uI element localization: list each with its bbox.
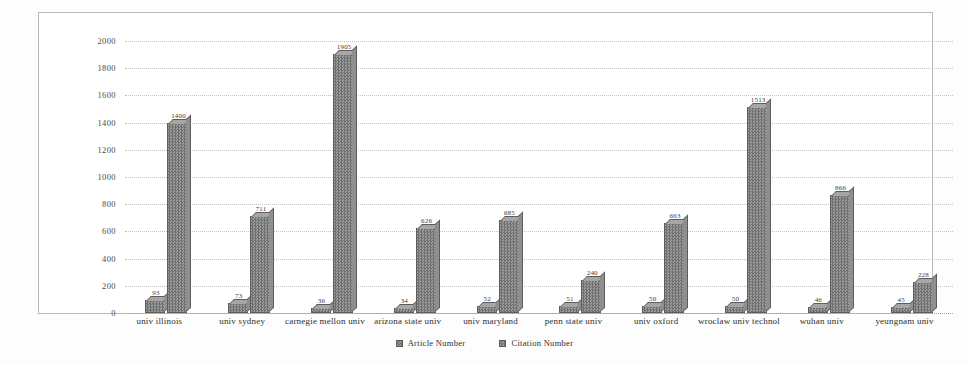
legend-swatch-icon [396, 340, 403, 347]
bar-article-number[interactable]: 50 [725, 306, 745, 313]
bar-value-label: 73 [235, 292, 242, 300]
bar-series-layer: 9314007371136190534626526855124050663501… [125, 41, 953, 313]
bar-article-number[interactable]: 46 [808, 307, 828, 313]
bar-group: 45228 [870, 282, 953, 313]
bar-item[interactable]: 711 [250, 216, 270, 313]
bar-citation-number[interactable]: 1905 [333, 54, 353, 313]
y-axis-tick-label: 1800 [97, 63, 125, 73]
y-axis-tick-label: 1200 [97, 145, 125, 155]
bar-group: 361905 [291, 54, 374, 313]
y-axis-tick-label: 400 [102, 254, 125, 264]
bar-item[interactable]: 663 [664, 223, 684, 313]
legend-label: Article Number [408, 338, 466, 348]
bar-group: 34626 [373, 228, 456, 313]
bar-group: 50663 [622, 223, 705, 313]
bar-group: 501513 [705, 107, 788, 313]
bar-article-number[interactable]: 50 [642, 306, 662, 313]
bar-value-label: 866 [835, 184, 846, 192]
x-axis-category-label: carnegie mellon univ [284, 316, 367, 327]
gridline [125, 313, 953, 314]
y-axis-tick-label: 1400 [97, 118, 125, 128]
bar-item[interactable]: 626 [416, 228, 436, 313]
y-axis-tick-label: 200 [102, 281, 125, 291]
bar-item[interactable]: 93 [145, 300, 165, 313]
bar-value-label: 51 [566, 295, 573, 303]
bar-value-label: 663 [670, 212, 681, 220]
x-axis-category-label: penn state univ [532, 316, 615, 327]
chart-screenshot: 0200400600800100012001400160018002000 93… [0, 0, 969, 365]
bar-item[interactable]: 51 [559, 306, 579, 313]
bar-item[interactable]: 50 [642, 306, 662, 313]
bar-article-number[interactable]: 34 [394, 308, 414, 313]
bar-item[interactable]: 73 [228, 303, 248, 313]
x-axis-category-label: univ maryland [449, 316, 532, 327]
bar-citation-number[interactable]: 711 [250, 216, 270, 313]
bar-citation-number[interactable]: 663 [664, 223, 684, 313]
bar-citation-number[interactable]: 1400 [167, 123, 187, 313]
legend-swatch-icon [499, 340, 506, 347]
bar-value-label: 93 [152, 289, 159, 297]
x-axis-category-label: yeungnam univ [863, 316, 946, 327]
bar-item[interactable]: 1513 [747, 107, 767, 313]
bar-value-label: 52 [483, 295, 490, 303]
bar-value-label: 50 [732, 295, 739, 303]
bar-item[interactable]: 34 [394, 308, 414, 313]
bar-value-label: 1905 [337, 43, 352, 51]
chart-frame: 0200400600800100012001400160018002000 93… [38, 12, 933, 314]
bar-item[interactable]: 45 [891, 307, 911, 313]
bar-value-label: 685 [504, 209, 515, 217]
bar-item[interactable]: 50 [725, 306, 745, 313]
bar-citation-number[interactable]: 240 [581, 280, 601, 313]
x-axis-category-label: univ oxford [615, 316, 698, 327]
bar-item[interactable]: 52 [477, 306, 497, 313]
bar-value-label: 228 [918, 271, 929, 279]
chart-legend: Article NumberCitation Number [0, 338, 969, 348]
bar-article-number[interactable]: 51 [559, 306, 579, 313]
bar-value-label: 711 [256, 205, 267, 213]
legend-item[interactable]: Article Number [396, 338, 466, 348]
bar-article-number[interactable]: 73 [228, 303, 248, 313]
bar-group: 73711 [208, 216, 291, 313]
bar-group: 931400 [125, 123, 208, 313]
bar-article-number[interactable]: 45 [891, 307, 911, 313]
bar-item[interactable]: 866 [830, 195, 850, 313]
bar-value-label: 50 [649, 295, 656, 303]
bar-item[interactable]: 685 [499, 220, 519, 313]
bar-article-number[interactable]: 93 [145, 300, 165, 313]
bar-article-number[interactable]: 52 [477, 306, 497, 313]
y-axis-tick-label: 2000 [97, 36, 125, 46]
legend-item[interactable]: Citation Number [499, 338, 573, 348]
bar-value-label: 1513 [751, 96, 766, 104]
bar-item[interactable]: 1905 [333, 54, 353, 313]
bar-item[interactable]: 240 [581, 280, 601, 313]
bar-value-label: 45 [897, 296, 904, 304]
bar-article-number[interactable]: 36 [311, 308, 331, 313]
bar-group: 52685 [456, 220, 539, 313]
bar-value-label: 1400 [171, 112, 186, 120]
bar-value-label: 34 [401, 297, 408, 305]
x-axis-category-label: univ illinois [118, 316, 201, 327]
bar-value-label: 36 [318, 297, 325, 305]
bar-group: 51240 [539, 280, 622, 313]
bar-item[interactable]: 228 [913, 282, 933, 313]
bar-value-label: 240 [587, 269, 598, 277]
legend-label: Citation Number [511, 338, 573, 348]
bar-citation-number[interactable]: 866 [830, 195, 850, 313]
y-axis-tick-label: 600 [102, 226, 125, 236]
bar-citation-number[interactable]: 228 [913, 282, 933, 313]
y-axis-tick-label: 800 [102, 199, 125, 209]
bar-citation-number[interactable]: 626 [416, 228, 436, 313]
plot-area: 0200400600800100012001400160018002000 93… [125, 41, 953, 313]
bar-value-label: 46 [815, 296, 822, 304]
x-axis-category-label: wuhan univ [780, 316, 863, 327]
x-axis-category-label: wroclaw univ technol [698, 316, 781, 327]
bar-item[interactable]: 36 [311, 308, 331, 313]
bar-item[interactable]: 1400 [167, 123, 187, 313]
x-axis-category-label: arizona state univ [366, 316, 449, 327]
bar-citation-number[interactable]: 1513 [747, 107, 767, 313]
bar-group: 46866 [787, 195, 870, 313]
x-axis-category-label: univ sydney [201, 316, 284, 327]
y-axis-tick-label: 1000 [97, 172, 125, 182]
bar-citation-number[interactable]: 685 [499, 220, 519, 313]
bar-item[interactable]: 46 [808, 307, 828, 313]
